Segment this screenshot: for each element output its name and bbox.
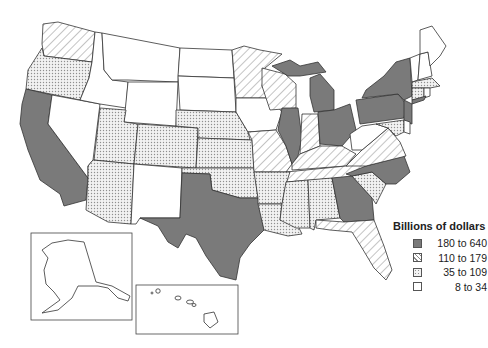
us-choropleth-map [0, 0, 488, 348]
state-montana [102, 33, 180, 82]
state-kansas [196, 138, 254, 168]
legend-item-180-640: 180 to 640 [393, 236, 488, 251]
legend-label: 8 to 34 [428, 281, 488, 293]
state-colorado [134, 124, 198, 168]
blank-swatch-icon [413, 282, 422, 291]
legend-item-8-34: 8 to 34 [393, 280, 488, 295]
state-new-mexico [131, 164, 182, 224]
state-arizona [86, 160, 134, 224]
legend-label: 110 to 179 [428, 252, 488, 264]
legend-item-35-109: 35 to 109 [393, 265, 488, 280]
state-new-york [362, 58, 412, 100]
state-north-dakota [178, 48, 234, 78]
state-wyoming [124, 82, 178, 126]
state-washington [42, 22, 95, 62]
state-delaware [404, 120, 410, 134]
dotted-swatch-icon [413, 268, 422, 277]
legend-title: Billions of dollars [393, 220, 488, 232]
legend-label: 180 to 640 [428, 237, 488, 249]
legend-item-110-179: 110 to 179 [393, 251, 488, 266]
legend-label: 35 to 109 [428, 266, 488, 278]
hatch-swatch-icon [413, 253, 422, 262]
legend: Billions of dollars 180 to 640 110 to 17… [393, 220, 488, 294]
state-florida [316, 220, 392, 280]
solid-swatch-icon [413, 239, 422, 248]
state-pennsylvania [356, 94, 406, 124]
state-michigan [310, 74, 334, 112]
state-south-dakota [178, 76, 236, 112]
